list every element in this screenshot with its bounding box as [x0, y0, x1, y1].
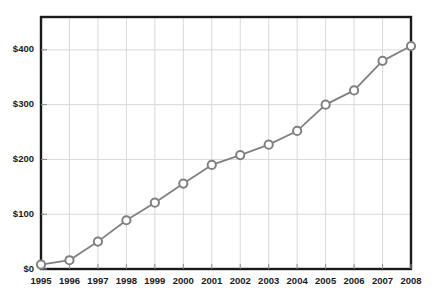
data-point-marker [208, 161, 216, 169]
line-chart: $0$100$200$300$400 199519961997199819992… [0, 0, 442, 298]
data-point-marker [37, 261, 45, 269]
data-point-marker [293, 127, 301, 135]
data-point-marker [65, 256, 73, 264]
chart-canvas: $0$100$200$300$400 199519961997199819992… [0, 0, 442, 298]
x-axis-tick-label: 2008 [400, 275, 421, 286]
data-point-marker [151, 199, 159, 207]
x-axis-tick-label: 2005 [315, 275, 337, 286]
x-axis-tick-label: 1997 [87, 275, 108, 286]
data-point-marker [122, 216, 130, 224]
x-axis-tick-label: 2003 [258, 275, 279, 286]
x-axis-tick-label: 1998 [116, 275, 137, 286]
x-axis-tick-label: 2004 [287, 275, 309, 286]
x-axis-tick-label: 2000 [173, 275, 194, 286]
data-point-marker [179, 179, 187, 187]
data-point-marker [94, 238, 102, 246]
x-axis-tick-label: 2002 [230, 275, 251, 286]
data-point-marker [265, 141, 273, 149]
y-axis-tick-label: $0 [23, 263, 34, 274]
y-axis-tick-label: $200 [13, 153, 34, 164]
x-axis-tick-label: 1995 [30, 275, 52, 286]
data-point-marker [407, 42, 415, 50]
data-point-marker [236, 151, 244, 159]
x-axis-tick-label: 1999 [144, 275, 165, 286]
x-axis-tick-label: 1996 [59, 275, 80, 286]
y-axis-tick-label: $100 [13, 208, 34, 219]
data-point-marker [378, 57, 386, 65]
plot-area-background [41, 17, 411, 269]
y-axis-tick-label: $400 [13, 43, 34, 54]
y-axis-tick-label: $300 [13, 98, 34, 109]
x-axis-tick-label: 2006 [344, 275, 365, 286]
data-point-marker [350, 86, 358, 94]
data-point-marker [322, 101, 330, 109]
x-axis-tick-label: 2001 [201, 275, 223, 286]
x-axis-tick-label: 2007 [372, 275, 393, 286]
